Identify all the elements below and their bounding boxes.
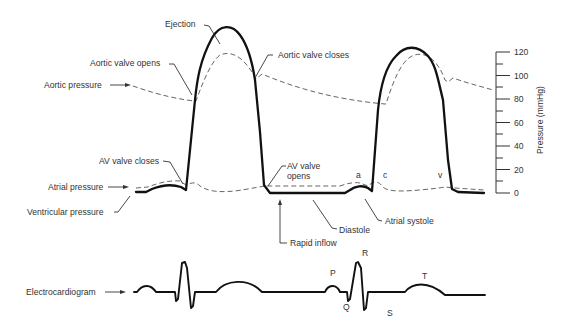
- tick-40: 40: [514, 141, 524, 151]
- ecg-wave-labels: P Q R S T: [330, 248, 428, 318]
- tick-20: 20: [514, 165, 524, 175]
- ecg-label-t: T: [422, 271, 428, 281]
- label-wave-c: c: [383, 170, 388, 180]
- svg-text:Aortic valve opens: Aortic valve opens: [90, 58, 160, 68]
- wiggers-diagram: 120 100 80 60 40 20 0 Pressure (mmHg) Ej…: [0, 0, 574, 330]
- svg-text:c: c: [383, 170, 388, 180]
- tick-80: 80: [514, 94, 524, 104]
- svg-text:opens: opens: [287, 171, 310, 181]
- ecg-label-r: R: [362, 248, 368, 258]
- svg-text:Diastole: Diastole: [339, 225, 370, 235]
- label-wave-a: a: [356, 170, 361, 180]
- label-aortic-valve-closes: Aortic valve closes: [255, 50, 349, 78]
- tick-120: 120: [514, 47, 529, 57]
- ecg-label-s: S: [387, 308, 393, 318]
- svg-text:v: v: [438, 170, 443, 180]
- label-av-valve-opens: AV valve opens: [268, 161, 320, 186]
- label-ventricular-pressure: Ventricular pressure: [27, 196, 130, 217]
- svg-text:Rapid inflow: Rapid inflow: [290, 238, 338, 248]
- label-atrial-systole: Atrial systole: [365, 199, 434, 226]
- svg-text:Ejection: Ejection: [165, 19, 196, 29]
- label-av-valve-closes: AV valve closes: [99, 156, 183, 184]
- pressure-axis: 120 100 80 60 40 20 0 Pressure (mmHg): [496, 47, 545, 198]
- axis-title: Pressure (mmHg): [535, 86, 545, 154]
- svg-text:Aortic pressure: Aortic pressure: [44, 80, 102, 90]
- label-aortic-pressure: Aortic pressure: [44, 80, 131, 90]
- svg-text:Atrial systole: Atrial systole: [385, 216, 434, 226]
- tick-0: 0: [514, 188, 519, 198]
- ecg-label-p: P: [330, 268, 336, 278]
- label-diastole: Diastole: [313, 200, 370, 235]
- svg-text:Electrocardiogram: Electrocardiogram: [26, 287, 96, 297]
- ecg-label-q: Q: [343, 302, 350, 312]
- svg-text:Ventricular pressure: Ventricular pressure: [27, 207, 104, 217]
- label-atrial-pressure: Atrial pressure: [48, 182, 129, 192]
- atrial-pressure-line: [136, 181, 484, 192]
- svg-text:AV valve closes: AV valve closes: [99, 156, 159, 166]
- svg-text:Aortic valve closes: Aortic valve closes: [278, 50, 349, 60]
- tick-100: 100: [514, 71, 529, 81]
- ecg-line: [134, 262, 485, 310]
- label-aortic-valve-opens: Aortic valve opens: [90, 58, 192, 95]
- svg-text:Atrial pressure: Atrial pressure: [48, 182, 104, 192]
- svg-text:a: a: [356, 170, 361, 180]
- label-wave-v: v: [438, 170, 443, 180]
- label-electrocardiogram: Electrocardiogram: [26, 287, 126, 297]
- svg-text:AV valve: AV valve: [287, 161, 320, 171]
- tick-60: 60: [514, 118, 524, 128]
